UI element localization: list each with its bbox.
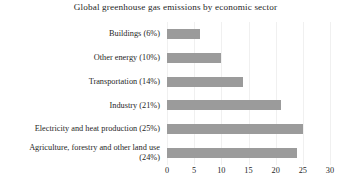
bar-row[interactable] <box>167 70 330 94</box>
x-tick-label: 30 <box>326 166 334 175</box>
bar-chart-figure: Global greenhouse gas emissions by econo… <box>0 0 351 191</box>
x-tick-label: 0 <box>165 166 169 175</box>
bar[interactable] <box>167 100 281 110</box>
category-label-line: Transportation (14%) <box>89 77 160 87</box>
category-label: Electricity and heat production (25%) <box>0 117 160 141</box>
category-label-line: Electricity and heat production (25%) <box>35 124 160 134</box>
category-label: Agriculture, forestry and other land use… <box>0 141 160 165</box>
bars-group <box>167 22 330 165</box>
category-label-line: Agriculture, forestry and other land use <box>29 143 160 153</box>
category-label: Transportation (14%) <box>0 70 160 94</box>
plot-area <box>167 22 330 165</box>
category-label-line: (24%) <box>29 153 160 163</box>
bar[interactable] <box>167 148 297 158</box>
bar[interactable] <box>167 29 200 39</box>
bar[interactable] <box>167 124 303 134</box>
gridline-30 <box>330 22 331 165</box>
category-axis-labels: Buildings (6%)Other energy (10%)Transpor… <box>0 22 164 165</box>
chart-title: Global greenhouse gas emissions by econo… <box>0 2 351 12</box>
x-tick-label: 10 <box>217 166 225 175</box>
category-label: Buildings (6%) <box>0 22 160 46</box>
bar-row[interactable] <box>167 117 330 141</box>
category-label-line: Buildings (6%) <box>109 29 160 39</box>
x-tick-label: 15 <box>244 166 252 175</box>
category-label: Other energy (10%) <box>0 46 160 70</box>
bar-row[interactable] <box>167 46 330 70</box>
bar[interactable] <box>167 53 221 63</box>
category-label-line: Industry (21%) <box>110 101 160 111</box>
x-tick-label: 5 <box>192 166 196 175</box>
bar-row[interactable] <box>167 22 330 46</box>
x-axis-tick-labels: 051015202530 <box>167 166 330 180</box>
bar[interactable] <box>167 77 243 87</box>
bar-row[interactable] <box>167 141 330 165</box>
bar-row[interactable] <box>167 94 330 118</box>
category-label: Industry (21%) <box>0 94 160 118</box>
category-label-line: Other energy (10%) <box>94 53 160 63</box>
x-tick-label: 20 <box>272 166 280 175</box>
x-tick-label: 25 <box>299 166 307 175</box>
